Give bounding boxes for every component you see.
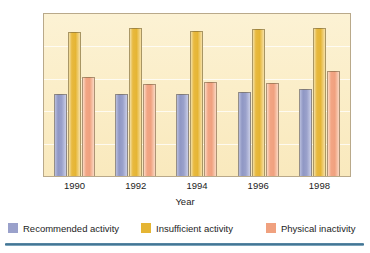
bar-group xyxy=(105,14,166,176)
legend-swatch-icon xyxy=(141,223,151,233)
bar[interactable] xyxy=(266,83,279,176)
bar-group xyxy=(289,14,350,176)
bar[interactable] xyxy=(327,71,340,176)
bar[interactable] xyxy=(190,31,203,176)
legend-swatch-icon xyxy=(266,223,276,233)
legend-label: Physical inactivity xyxy=(281,223,355,234)
bar[interactable] xyxy=(299,89,312,176)
x-axis-title: Year xyxy=(0,196,370,207)
bar[interactable] xyxy=(129,28,142,176)
bars-layer xyxy=(44,14,350,176)
bar[interactable] xyxy=(204,82,217,176)
legend-item[interactable]: Insufficient activity xyxy=(141,221,233,235)
bar-group xyxy=(166,14,227,176)
bar-group xyxy=(44,14,105,176)
legend-swatch-icon xyxy=(8,223,18,233)
chart-plot-area xyxy=(43,13,351,177)
x-tick-label: 1992 xyxy=(113,180,159,191)
bar[interactable] xyxy=(143,84,156,176)
legend-item[interactable]: Recommended activity xyxy=(8,221,119,235)
bar[interactable] xyxy=(54,94,67,176)
legend-label: Insufficient activity xyxy=(156,223,233,234)
bar[interactable] xyxy=(82,77,95,176)
bar[interactable] xyxy=(252,29,265,176)
bar[interactable] xyxy=(68,32,81,176)
figure: 01020304050 Participation (%) 1990199219… xyxy=(0,0,370,253)
legend-label: Recommended activity xyxy=(23,223,119,234)
bar[interactable] xyxy=(238,92,251,176)
legend-item[interactable]: Physical inactivity xyxy=(266,221,355,235)
chart-legend: Recommended activityInsufficient activit… xyxy=(8,221,364,235)
x-tick-label: 1994 xyxy=(174,180,220,191)
bar-group xyxy=(228,14,289,176)
bottom-divider-rule xyxy=(5,243,364,246)
x-tick-label: 1996 xyxy=(235,180,281,191)
bar[interactable] xyxy=(176,94,189,176)
bar[interactable] xyxy=(313,28,326,176)
x-tick-label: 1990 xyxy=(52,180,98,191)
x-tick-label: 1998 xyxy=(296,180,342,191)
bar[interactable] xyxy=(115,94,128,176)
